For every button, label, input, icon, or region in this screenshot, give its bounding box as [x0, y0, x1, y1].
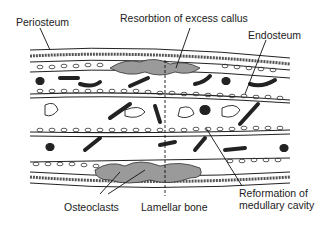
label-reformation-line2: medullary cavity: [239, 199, 314, 211]
label-periosteum: Periosteum: [16, 16, 69, 28]
label-resorption-of-excess-callus: Resorbtion of excess callus: [120, 12, 248, 24]
marrow-elements: [36, 76, 288, 152]
label-lamellar-bone: Lamellar bone: [141, 201, 208, 213]
label-osteoclasts: Osteoclasts: [64, 201, 119, 213]
label-endosteum: Endosteum: [248, 29, 301, 41]
label-reformation-line1: Reformation of: [239, 187, 308, 199]
